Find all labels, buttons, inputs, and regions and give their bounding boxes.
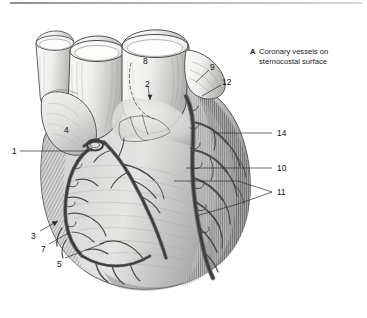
label-1: 1 <box>12 147 17 155</box>
label-8: 8 <box>143 57 148 65</box>
figure-page: A Coronary vessels on sternocostal surfa… <box>0 0 367 318</box>
label-14: 14 <box>277 129 286 137</box>
label-12: 12 <box>222 78 231 86</box>
panel-letter: A <box>250 47 255 57</box>
figure-caption: A Coronary vessels on sternocostal surfa… <box>250 47 362 67</box>
label-10: 10 <box>277 164 286 172</box>
label-5: 5 <box>57 260 62 268</box>
caption-line-1: Coronary vessels on <box>250 47 362 57</box>
label-7: 7 <box>41 245 46 253</box>
label-4: 4 <box>64 126 69 134</box>
label-2: 2 <box>145 80 150 88</box>
caption-line-2: sternocostal surface <box>250 57 362 67</box>
label-3: 3 <box>31 232 36 240</box>
label-9: 9 <box>210 63 215 71</box>
label-11: 11 <box>277 188 286 196</box>
